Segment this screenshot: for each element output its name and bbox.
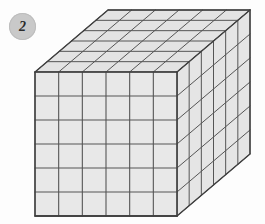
problem-number-badge: 2	[9, 13, 36, 40]
figure-page: 2	[0, 0, 265, 224]
unit-cube-block	[0, 0, 265, 224]
problem-number-label: 2	[19, 20, 26, 34]
cube-front-face	[35, 72, 177, 216]
